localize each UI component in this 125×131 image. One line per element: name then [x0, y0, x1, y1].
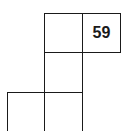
grid-cell-r0-c1 — [44, 13, 83, 53]
cell-value: 59 — [83, 14, 120, 52]
grid-cell-r1-c1 — [44, 52, 83, 93]
cell-value — [45, 14, 82, 52]
grid-cell-r2-c0 — [7, 92, 45, 131]
grid-cell-r0-c2: 59 — [82, 13, 121, 53]
cell-value — [45, 53, 82, 92]
grid-cell-r2-c1 — [44, 92, 83, 131]
cell-value — [8, 93, 44, 131]
cell-value — [45, 93, 82, 131]
